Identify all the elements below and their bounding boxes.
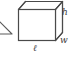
length-label: ℓ: [33, 44, 37, 53]
prism-front-face: [19, 10, 56, 41]
geometry-figure: h w ℓ: [0, 0, 72, 59]
width-label: w: [60, 36, 68, 45]
height-label: h: [62, 8, 68, 17]
partial-triangle-wedge: [0, 16, 12, 34]
